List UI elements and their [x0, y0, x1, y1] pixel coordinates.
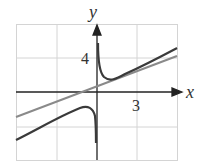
chart-plot	[0, 0, 204, 166]
y-tick-label: 4	[81, 50, 89, 68]
x-axis-label: x	[186, 82, 194, 103]
y-axis-arrow-icon	[93, 25, 101, 35]
x-tick-label: 3	[132, 97, 140, 115]
y-axis-label: y	[89, 2, 97, 23]
